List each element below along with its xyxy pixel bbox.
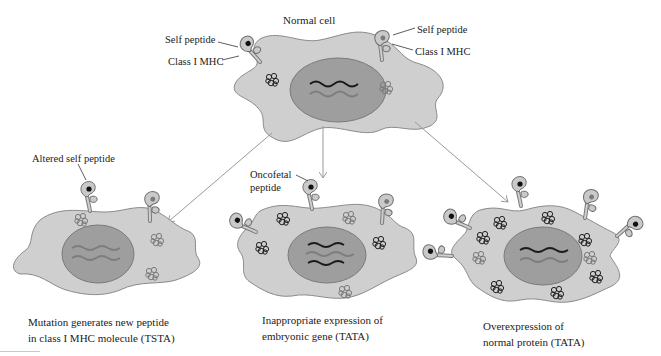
self-peptide-label-left: Self peptide [165, 33, 215, 46]
tsta-cell [13, 164, 199, 295]
tsta-caption-line1: Mutation generates new peptide [28, 314, 175, 330]
oncofetal-peptide-label-line2: peptide [250, 181, 281, 194]
tumor-antigen-diagram [0, 0, 661, 356]
oncofetal-caption: Inappropriate expression of embryonic ge… [262, 312, 383, 344]
normal-cell-nucleus [290, 58, 386, 122]
oncofetal-caption-line2: embryonic gene (TATA) [262, 328, 383, 344]
overexpression-cell [421, 177, 646, 303]
oncofetal-caption-line1: Inappropriate expression of [262, 312, 383, 328]
tsta-caption: Mutation generates new peptide in class … [28, 314, 175, 346]
class-i-mhc-icon [421, 241, 454, 264]
class-i-mhc-label-right: Class I MHC [415, 45, 470, 58]
class-i-mhc-icon [303, 180, 319, 209]
class-i-mhc-icon [512, 177, 528, 206]
bottom-divider [0, 351, 40, 352]
class-i-mhc-label-left: Class I MHC [168, 55, 223, 68]
overexpression-caption: Overexpression of normal protein (TATA) [483, 318, 585, 350]
self-peptide-label-right: Self peptide [417, 23, 467, 36]
class-i-mhc-icon [81, 182, 97, 211]
altered-self-peptide-label: Altered self peptide [32, 152, 115, 165]
tsta-cell-nucleus [62, 225, 134, 283]
normal-cell [218, 28, 443, 141]
class-i-mhc-icon [612, 213, 646, 242]
overexpression-caption-line1: Overexpression of [483, 318, 585, 334]
tsta-caption-line2: in class I MHC molecule (TSTA) [28, 330, 175, 346]
overexpression-caption-line2: normal protein (TATA) [483, 334, 585, 350]
arrow-icon [415, 122, 508, 202]
oncofetal-peptide-label-line1: Oncofetal [250, 168, 291, 181]
normal-cell-title: Normal cell [283, 14, 335, 27]
overexpression-cell-nucleus [504, 227, 582, 285]
